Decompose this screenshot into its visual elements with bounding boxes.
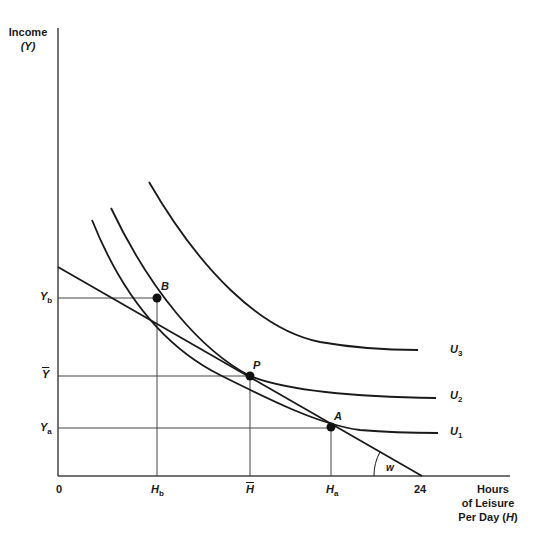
point-a-marker	[327, 423, 336, 432]
labor-leisure-diagram	[0, 0, 533, 551]
point-p-marker	[246, 372, 255, 381]
y-tick-ybar: Y	[42, 368, 49, 382]
point-p-label: P	[253, 359, 260, 373]
y-tick-ya: Ya	[40, 421, 52, 437]
indifference-curve-u3	[149, 182, 418, 350]
y-tick-yb: Yb	[40, 290, 52, 306]
x-tick-hbar: H	[246, 483, 254, 497]
indifference-curve-u2	[111, 208, 436, 398]
point-b-label: B	[161, 280, 169, 294]
y-axis-title: Income (Y)	[6, 26, 50, 54]
y-axis-title-line2: (Y)	[6, 40, 50, 54]
point-a-label: A	[334, 410, 342, 424]
x-tick-24: 24	[414, 483, 426, 497]
angle-w-label: w	[386, 462, 394, 475]
x-origin-label: 0	[56, 483, 62, 497]
angle-w-arc	[374, 452, 380, 476]
curve-u1-label: U1	[450, 425, 462, 441]
curve-u3-label: U3	[450, 343, 462, 359]
curve-u2-label: U2	[450, 389, 462, 405]
x-tick-hb: Hb	[151, 483, 164, 499]
y-axis-title-line1: Income	[6, 26, 50, 40]
x-tick-ha: Ha	[326, 483, 338, 499]
indifference-curve-u1	[92, 220, 438, 433]
point-b-marker	[153, 294, 162, 303]
x-axis-title: Hours of Leisure Per Day (H)	[448, 483, 528, 524]
